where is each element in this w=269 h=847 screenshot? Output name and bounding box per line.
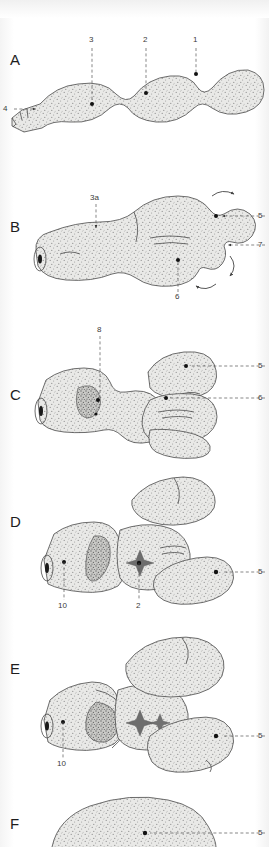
label-b-5: 5 — [258, 212, 262, 220]
label-a-1: 1 — [193, 36, 197, 44]
panel-b-artwork — [34, 191, 265, 292]
label-a-4: 4 — [3, 105, 7, 113]
label-a-3: 3 — [89, 36, 93, 44]
label-e-10: 10 — [57, 760, 66, 768]
label-c-6: 6 — [258, 394, 262, 402]
label-d-10: 10 — [58, 602, 67, 610]
panel-letter-c: C — [10, 386, 21, 403]
label-d-2: 2 — [136, 602, 140, 610]
label-a-2: 2 — [143, 36, 147, 44]
panel-d-artwork — [41, 477, 265, 604]
label-c-8: 8 — [97, 326, 101, 334]
label-b-7: 7 — [258, 241, 262, 249]
panel-letter-f: F — [10, 815, 20, 832]
panel-letter-a: A — [10, 51, 21, 68]
label-b-3a: 3a — [90, 194, 99, 202]
label-d-5: 5 — [258, 568, 262, 576]
panel-f-artwork — [52, 797, 265, 847]
panel-letter-e: E — [10, 660, 21, 677]
panel-c-artwork — [35, 336, 265, 458]
panel-e-artwork — [41, 637, 265, 772]
panel-letter-d: D — [10, 513, 21, 530]
plate-artwork — [0, 0, 269, 847]
label-b-6: 6 — [175, 293, 179, 301]
label-f-5: 5 — [258, 829, 262, 837]
panel-letter-b: B — [10, 218, 21, 235]
illustration-plate: A B C D E F 3 2 1 4 3a 5 7 6 8 5 6 10 2 … — [0, 0, 269, 847]
panel-a-artwork — [12, 48, 264, 132]
label-c-5: 5 — [258, 362, 262, 370]
label-e-5: 5 — [258, 732, 262, 740]
